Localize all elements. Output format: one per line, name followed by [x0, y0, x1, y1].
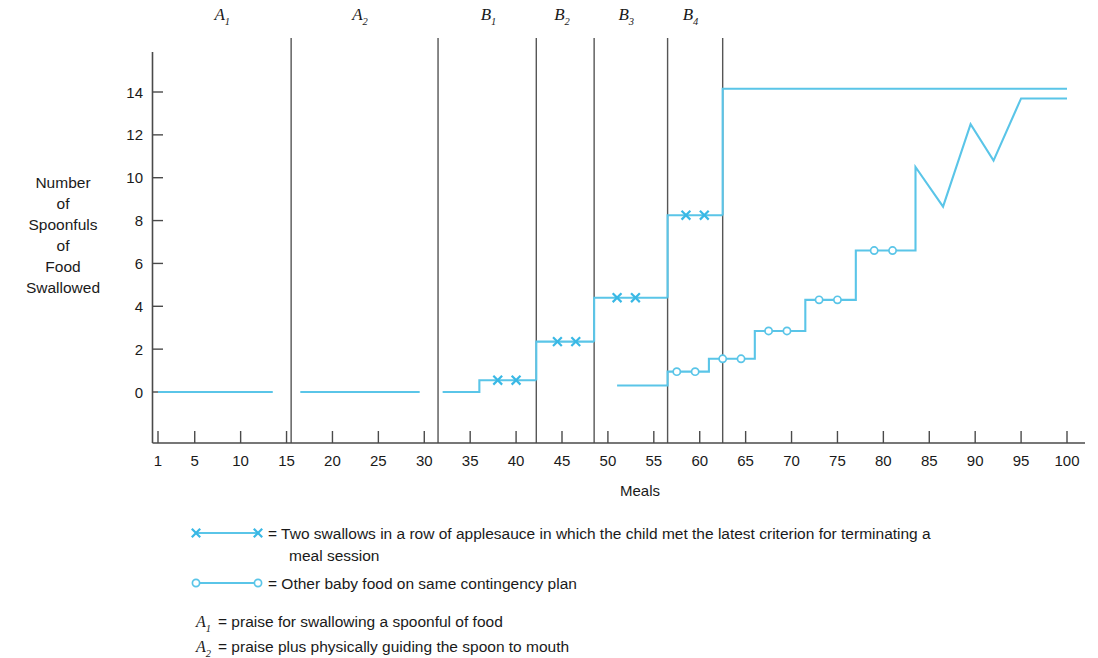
x-tick-label-90: 90: [967, 452, 984, 469]
marker-o: [871, 247, 878, 254]
x-tick-label-40: 40: [508, 452, 525, 469]
x-tick-label-100: 100: [1054, 452, 1079, 469]
y-tick-label-6: 6: [135, 255, 143, 272]
x-tick-label-20: 20: [324, 452, 341, 469]
x-tick-label-35: 35: [462, 452, 479, 469]
x-tick-label-70: 70: [783, 452, 800, 469]
y-axis-title-line-1: Number: [35, 174, 90, 191]
x-tick-label-10: 10: [232, 452, 249, 469]
y-axis-title-line-6: Swallowed: [26, 279, 100, 296]
x-tick-label-85: 85: [921, 452, 938, 469]
y-tick-label-0: 0: [135, 384, 143, 401]
marker-o: [815, 296, 822, 303]
marker-o: [783, 327, 790, 334]
note-text-A1: = praise for swallowing a spoonful of fo…: [218, 613, 503, 630]
x-tick-label-55: 55: [645, 452, 662, 469]
legend-text-applesauce-line2: meal session: [289, 547, 379, 564]
marker-o: [765, 327, 772, 334]
x-tick-label-60: 60: [691, 452, 708, 469]
chart-background: [0, 0, 1098, 658]
y-tick-label-8: 8: [135, 212, 143, 229]
y-axis-title-line-3: Spoonfuls: [29, 216, 98, 233]
y-axis-title-line-4: of: [57, 237, 71, 254]
marker-o: [834, 296, 841, 303]
legend-text-applesauce-line1: = Two swallows in a row of applesauce in…: [268, 525, 931, 542]
y-tick-label-12: 12: [126, 126, 143, 143]
x-tick-label-5: 5: [191, 452, 199, 469]
x-tick-label-1: 1: [154, 452, 162, 469]
single-subject-line-chart: A1A2B1B2B3B4 02468101214 151015202530354…: [0, 0, 1098, 658]
x-tick-label-45: 45: [554, 452, 571, 469]
x-tick-label-25: 25: [370, 452, 387, 469]
y-tick-label-4: 4: [135, 298, 143, 315]
x-tick-label-75: 75: [829, 452, 846, 469]
marker-o: [737, 355, 744, 362]
marker-o: [889, 247, 896, 254]
x-tick-label-80: 80: [875, 452, 892, 469]
legend-text-baby-food: = Other baby food on same contingency pl…: [268, 575, 577, 592]
y-tick-label-14: 14: [126, 84, 143, 101]
y-tick-label-2: 2: [135, 341, 143, 358]
x-tick-label-95: 95: [1013, 452, 1030, 469]
x-axis-title: Meals: [620, 482, 660, 499]
x-tick-label-15: 15: [278, 452, 295, 469]
x-tick-label-30: 30: [416, 452, 433, 469]
marker-o: [673, 368, 680, 375]
x-tick-label-65: 65: [737, 452, 754, 469]
note-text-A2: = praise plus physically guiding the spo…: [218, 638, 569, 655]
y-axis-title-line-2: of: [57, 195, 71, 212]
y-tick-label-10: 10: [126, 169, 143, 186]
y-axis-title-line-5: Food: [45, 258, 80, 275]
marker-o: [692, 368, 699, 375]
marker-o: [719, 355, 726, 362]
x-tick-label-50: 50: [600, 452, 617, 469]
